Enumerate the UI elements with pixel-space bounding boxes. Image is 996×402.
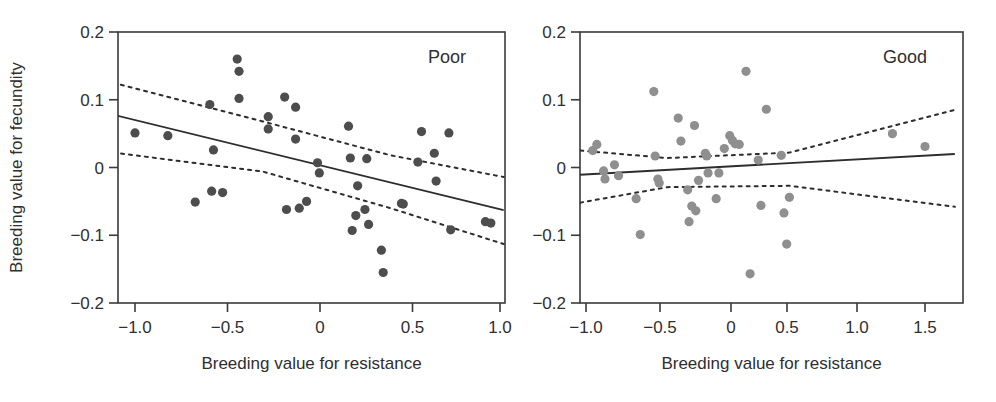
data-point bbox=[674, 113, 683, 122]
panel-label-left: Poor bbox=[428, 47, 466, 67]
data-point bbox=[360, 205, 369, 214]
y-tick-label-left-1: 0.1 bbox=[80, 91, 104, 110]
x-tick-label-right-5: 1.5 bbox=[913, 318, 937, 337]
panel-label-right: Good bbox=[883, 47, 927, 67]
data-point bbox=[756, 201, 765, 210]
data-point bbox=[745, 269, 754, 278]
data-point bbox=[632, 194, 641, 203]
x-tick-label-right-0: −1.0 bbox=[569, 318, 603, 337]
x-tick-label-right-3: 0.5 bbox=[775, 318, 799, 337]
data-point bbox=[684, 217, 693, 226]
data-point bbox=[207, 187, 216, 196]
data-point bbox=[694, 176, 703, 185]
data-point bbox=[486, 218, 495, 227]
x-tick-label-right-4: 1.0 bbox=[845, 318, 869, 337]
data-point bbox=[205, 100, 214, 109]
data-point bbox=[690, 121, 699, 130]
y-tick-label-right-0: 0.2 bbox=[542, 23, 566, 42]
data-point bbox=[762, 105, 771, 114]
data-point bbox=[417, 127, 426, 136]
data-point bbox=[399, 199, 408, 208]
data-point bbox=[233, 55, 242, 64]
y-tick-label-left-3: −0.1 bbox=[70, 226, 104, 245]
data-point bbox=[785, 193, 794, 202]
data-point bbox=[676, 136, 685, 145]
data-point bbox=[444, 128, 453, 137]
y-tick-label-right-3: −0.1 bbox=[532, 226, 566, 245]
data-point bbox=[209, 145, 218, 154]
data-point bbox=[735, 140, 744, 149]
data-point bbox=[362, 154, 371, 163]
data-point bbox=[344, 122, 353, 131]
data-point bbox=[377, 246, 386, 255]
data-point bbox=[379, 268, 388, 277]
data-point bbox=[741, 67, 750, 76]
data-point bbox=[346, 153, 355, 162]
data-point bbox=[315, 168, 324, 177]
x-tick-label-left-2: 0 bbox=[315, 318, 324, 337]
data-point bbox=[691, 206, 700, 215]
data-point bbox=[600, 174, 609, 183]
data-point bbox=[446, 225, 455, 234]
x-tick-label-right-1: −0.5 bbox=[643, 318, 677, 337]
data-point bbox=[280, 92, 289, 101]
data-points-right bbox=[588, 67, 929, 279]
data-point bbox=[130, 128, 139, 137]
data-point bbox=[720, 144, 729, 153]
data-point bbox=[610, 160, 619, 169]
data-point bbox=[592, 140, 601, 149]
data-point bbox=[264, 112, 273, 121]
data-point bbox=[295, 204, 304, 213]
data-point bbox=[777, 151, 786, 160]
data-point bbox=[264, 124, 273, 133]
data-point bbox=[782, 239, 791, 248]
data-point bbox=[218, 188, 227, 197]
data-point bbox=[234, 94, 243, 103]
scatter-panel-figure: −1.0−0.500.51.00.20.10−0.1−0.2PoorBreedi… bbox=[0, 0, 996, 402]
y-tick-label-right-4: −0.2 bbox=[532, 294, 566, 313]
panel-right: −1.0−0.500.51.01.50.20.10−0.1−0.2GoodBre… bbox=[532, 23, 963, 373]
x-axis-title-right: Breeding value for resistance bbox=[661, 354, 881, 373]
regression-line-left bbox=[113, 115, 504, 211]
x-tick-label-left-4: 1.0 bbox=[488, 318, 512, 337]
data-point bbox=[636, 230, 645, 239]
y-axis-title-left: Breeding value for fecundity bbox=[7, 62, 26, 273]
data-point bbox=[348, 226, 357, 235]
data-point bbox=[282, 205, 291, 214]
data-point bbox=[351, 211, 360, 220]
x-tick-label-left-0: −1.0 bbox=[118, 318, 152, 337]
x-tick-label-left-3: 0.5 bbox=[401, 318, 425, 337]
data-point bbox=[651, 151, 660, 160]
x-axis-title-left: Breeding value for resistance bbox=[201, 354, 421, 373]
y-tick-label-left-0: 0.2 bbox=[80, 23, 104, 42]
data-point bbox=[614, 171, 623, 180]
data-point bbox=[712, 194, 721, 203]
x-tick-label-left-1: −0.5 bbox=[211, 318, 245, 337]
y-tick-label-right-1: 0.1 bbox=[542, 91, 566, 110]
data-point bbox=[364, 220, 373, 229]
data-point bbox=[649, 87, 658, 96]
data-point bbox=[163, 131, 172, 140]
data-point bbox=[599, 166, 608, 175]
data-point bbox=[302, 197, 311, 206]
data-point bbox=[920, 142, 929, 151]
y-tick-label-left-4: −0.2 bbox=[70, 294, 104, 313]
data-point bbox=[703, 168, 712, 177]
panel-left: −1.0−0.500.51.00.20.10−0.1−0.2PoorBreedi… bbox=[7, 23, 512, 373]
y-tick-label-left-2: 0 bbox=[95, 159, 104, 178]
data-point bbox=[191, 197, 200, 206]
data-point bbox=[779, 208, 788, 217]
data-point bbox=[702, 151, 711, 160]
data-point bbox=[291, 103, 300, 112]
data-point bbox=[234, 67, 243, 76]
data-point bbox=[888, 129, 897, 138]
plot-frame-right bbox=[580, 32, 963, 303]
data-point bbox=[353, 181, 362, 190]
data-point bbox=[413, 157, 422, 166]
data-point bbox=[655, 178, 664, 187]
figure-container: −1.0−0.500.51.00.20.10−0.1−0.2PoorBreedi… bbox=[0, 0, 996, 402]
x-tick-label-right-2: 0 bbox=[726, 318, 735, 337]
data-point bbox=[432, 176, 441, 185]
data-point bbox=[754, 155, 763, 164]
y-tick-label-right-2: 0 bbox=[557, 159, 566, 178]
